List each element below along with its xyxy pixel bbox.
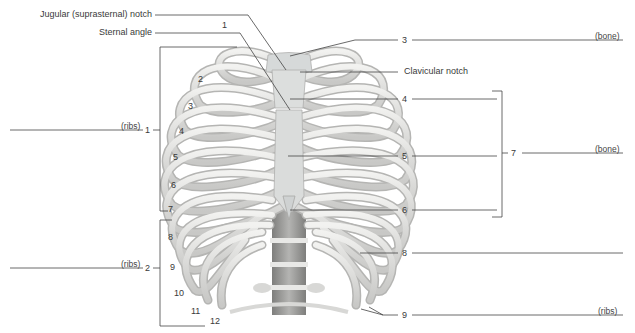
blank-5-answer-line[interactable] [412, 146, 497, 157]
rib-number-6: 6 [171, 180, 176, 191]
blank-8-number: 8 [402, 248, 407, 259]
blank-2-number: 2 [145, 263, 150, 274]
rib-number-1: 1 [222, 20, 227, 31]
rib-number-3: 3 [188, 101, 193, 112]
blank-9-answer-line[interactable] [412, 305, 623, 316]
clavicular-notch-label: Clavicular notch [402, 66, 470, 77]
blank-5-number: 5 [402, 151, 407, 162]
rib-number-11: 11 [191, 306, 200, 317]
rib-number-5: 5 [173, 152, 178, 163]
rib-cage-illustration [0, 0, 635, 333]
blank-6-number: 6 [402, 205, 407, 216]
leader-lines [10, 15, 623, 326]
blank-7-number: 7 [511, 148, 516, 159]
rib-number-8: 8 [168, 232, 173, 243]
rib-number-7: 7 [168, 204, 173, 215]
blank-1-number: 1 [145, 125, 150, 136]
blank-9-number: 9 [402, 310, 407, 321]
blank-2-answer-line[interactable] [10, 258, 143, 269]
jugular-notch-label: Jugular (suprasternal) notch [20, 9, 154, 20]
blank-7-answer-line[interactable] [522, 143, 623, 154]
rib-number-2: 2 [198, 74, 203, 85]
rib-number-4: 4 [179, 126, 184, 137]
rib-number-9: 9 [170, 262, 175, 273]
sternal-angle-label: Sternal angle [60, 27, 154, 38]
blank-4-number: 4 [402, 94, 407, 105]
blank-3-answer-line[interactable] [412, 30, 623, 41]
thoracic-cage-diagram: Jugular (suprasternal) notch Sternal ang… [0, 0, 635, 333]
blank-3-number: 3 [402, 35, 407, 46]
blank-8-answer-line[interactable] [412, 243, 623, 254]
blank-1-answer-line[interactable] [10, 120, 143, 131]
blank-4-answer-line[interactable] [412, 89, 497, 100]
clavicle-stub [266, 53, 312, 73]
rib-number-12: 12 [210, 316, 220, 327]
blank-6-answer-line[interactable] [412, 200, 497, 211]
manubrium [272, 70, 306, 108]
rib-number-10: 10 [174, 288, 184, 299]
